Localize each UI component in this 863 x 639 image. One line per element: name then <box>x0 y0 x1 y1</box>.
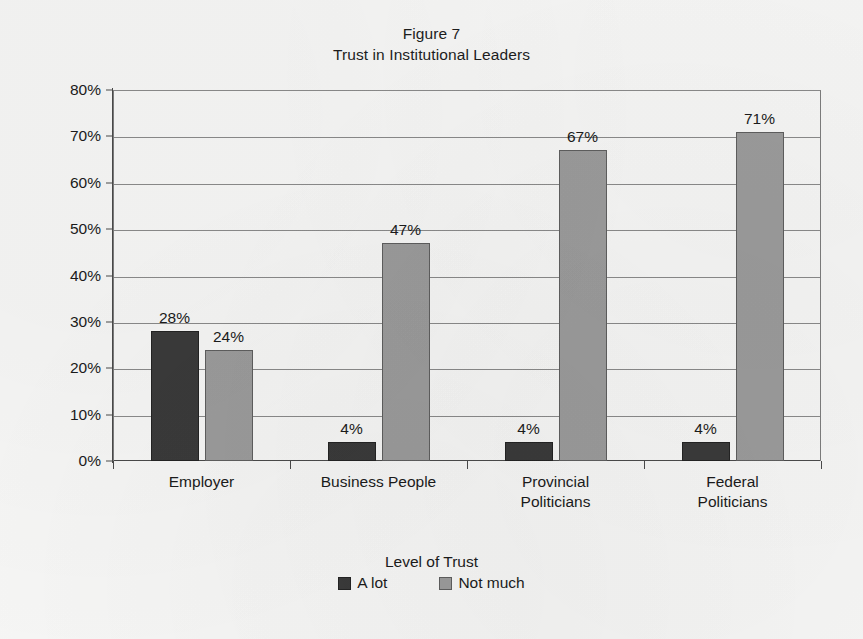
figure-number: Figure 7 <box>0 23 863 44</box>
figure-title-block: Figure 7 Trust in Institutional Leaders <box>0 23 863 65</box>
legend-swatch-not-much <box>439 577 452 590</box>
bar-value-label: 4% <box>694 420 716 438</box>
bar-value-label: 71% <box>744 110 775 128</box>
x-axis-tick <box>290 461 291 469</box>
bar-not-much <box>559 150 607 461</box>
legend-block: Level of Trust A lot Not much <box>0 551 863 592</box>
bar-value-label: 4% <box>517 420 539 438</box>
y-axis-tick-label: 0% <box>79 452 101 470</box>
x-axis-title: Level of Trust <box>0 551 863 572</box>
y-axis-tick-label: 60% <box>70 174 101 192</box>
category-label-provincial-politicians: Provincial Politicians <box>521 472 591 512</box>
legend-item-a-lot: A lot <box>338 574 387 592</box>
legend-swatch-a-lot <box>338 577 351 590</box>
bar-value-label: 28% <box>159 309 190 327</box>
x-axis-tick <box>467 461 468 469</box>
bar-a-lot <box>505 442 553 461</box>
y-axis-tick-label: 40% <box>70 267 101 285</box>
legend-label-not-much: Not much <box>458 574 524 592</box>
category-label-employer: Employer <box>169 472 234 492</box>
bar-a-lot <box>151 331 199 461</box>
bar-value-label: 67% <box>567 128 598 146</box>
category-label-federal-politicians: Federal Politicians <box>688 472 777 512</box>
bar-value-label: 47% <box>390 221 421 239</box>
y-axis-tick-label: 30% <box>70 313 101 331</box>
bars-layer: 28%24%4%47%4%67%4%71% <box>113 90 821 461</box>
legend-label-a-lot: A lot <box>357 574 387 592</box>
x-axis-ticks <box>113 461 821 471</box>
bar-value-label: 24% <box>213 328 244 346</box>
y-axis-tick-label: 10% <box>70 406 101 424</box>
bar-value-label: 4% <box>340 420 362 438</box>
category-label-business-people: Business People <box>321 472 436 492</box>
figure-page: Figure 7 Trust in Institutional Leaders … <box>0 0 863 639</box>
x-axis-tick <box>821 461 822 469</box>
bar-a-lot <box>682 442 730 461</box>
bar-not-much <box>382 243 430 461</box>
bar-a-lot <box>328 442 376 461</box>
y-axis-tick-label: 20% <box>70 359 101 377</box>
x-axis-tick <box>113 461 114 469</box>
y-axis-tick-label: 70% <box>70 127 101 145</box>
legend: A lot Not much <box>0 574 863 592</box>
y-axis-tick-label: 80% <box>70 81 101 99</box>
y-axis-tick-label: 50% <box>70 220 101 238</box>
figure-title: Trust in Institutional Leaders <box>0 44 863 65</box>
x-axis-category-labels: Employer Business People Provincial Poli… <box>113 472 821 532</box>
x-axis-tick <box>644 461 645 469</box>
legend-item-not-much: Not much <box>439 574 524 592</box>
y-axis: 0%10%20%30%40%50%60%70%80% <box>0 90 113 461</box>
bar-not-much <box>736 132 784 461</box>
bar-not-much <box>205 350 253 461</box>
